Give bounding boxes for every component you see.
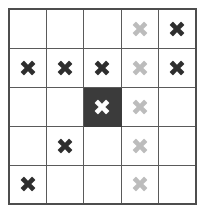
cell-r1-c5[interactable] [159,9,196,48]
cell-r1-c2[interactable] [46,9,83,48]
cross-icon [10,49,46,87]
cell-r4-c2[interactable] [46,126,83,165]
cross-icon [122,166,158,204]
grid-row [9,48,196,87]
empty-cell [84,166,120,204]
cell-r2-c3[interactable] [84,48,121,87]
cell-r5-c2[interactable] [46,165,83,204]
empty-cell [84,127,120,165]
empty-cell [10,10,46,48]
cell-r5-c1[interactable] [9,165,46,204]
empty-cell [47,88,83,126]
cell-r2-c2[interactable] [46,48,83,87]
cell-r3-c4[interactable] [121,87,158,126]
cell-r2-c1[interactable] [9,48,46,87]
cell-r5-c3[interactable] [84,165,121,204]
cell-r3-c1[interactable] [9,87,46,126]
cross-icon [122,127,158,165]
cell-r2-c5[interactable] [159,48,196,87]
empty-cell [47,166,83,204]
cell-r1-c1[interactable] [9,9,46,48]
empty-cell [159,166,195,204]
cross-icon [47,127,83,165]
cell-r5-c4[interactable] [121,165,158,204]
grid-row [9,126,196,165]
cell-r3-c3[interactable] [84,87,121,126]
cross-icon [84,49,120,87]
cross-icon [159,49,195,87]
cell-r4-c5[interactable] [159,126,196,165]
mark-grid-body [9,9,196,204]
empty-cell [10,127,46,165]
cross-icon [47,49,83,87]
cell-r3-c2[interactable] [46,87,83,126]
empty-cell [47,10,83,48]
cell-r4-c4[interactable] [121,126,158,165]
cell-r5-c5[interactable] [159,165,196,204]
cross-icon [159,10,195,48]
cell-r1-c4[interactable] [121,9,158,48]
cell-r4-c3[interactable] [84,126,121,165]
cell-r3-c5[interactable] [159,87,196,126]
cell-r4-c1[interactable] [9,126,46,165]
cross-icon [122,10,158,48]
empty-cell [10,88,46,126]
empty-cell [159,88,195,126]
grid-figure [0,0,206,214]
cross-icon [122,49,158,87]
cross-icon [122,88,158,126]
grid-row [9,9,196,48]
cross-icon [10,166,46,204]
mark-grid [8,8,197,205]
empty-cell [159,127,195,165]
empty-cell [84,10,120,48]
cell-r1-c3[interactable] [84,9,121,48]
cell-r2-c4[interactable] [121,48,158,87]
grid-row [9,87,196,126]
grid-row [9,165,196,204]
cross-icon [84,88,120,126]
